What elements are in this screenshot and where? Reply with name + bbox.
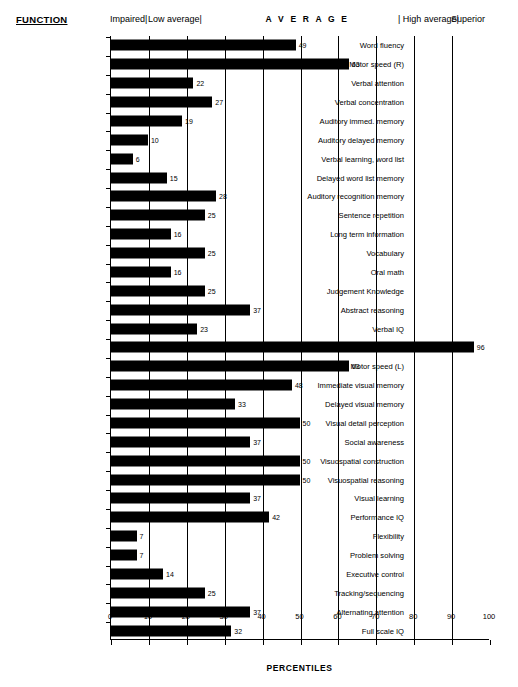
- bar-8: [110, 191, 216, 202]
- bar-wrap: 27: [110, 93, 489, 112]
- bar-wrap: 6: [110, 149, 489, 168]
- chart-row: Social awareness37: [0, 432, 518, 451]
- bar-wrap: 7: [110, 527, 489, 546]
- bar-value-3: 27: [212, 99, 223, 106]
- bar-value-6: 6: [133, 155, 140, 162]
- bar-wrap: 16: [110, 263, 489, 282]
- bar-value-19: 33: [235, 401, 246, 408]
- bar-value-22: 50: [300, 457, 311, 464]
- bar-3: [110, 97, 212, 108]
- bar-wrap: 25: [110, 206, 489, 225]
- bar-wrap: 25: [110, 281, 489, 300]
- band-label-3: | High average|: [398, 14, 459, 24]
- bar-14: [110, 304, 250, 315]
- bar-wrap: 15: [110, 168, 489, 187]
- chart-row: Tracking/sequencing25: [0, 583, 518, 602]
- bar-wrap: 7: [110, 546, 489, 565]
- chart-row: Delayed visual memory33: [0, 395, 518, 414]
- x-tick-60: [338, 640, 339, 645]
- bar-wrap: 63: [110, 55, 489, 74]
- bar-value-25: 42: [269, 514, 280, 521]
- bar-value-29: 25: [205, 589, 216, 596]
- chart-row: Immediate visual memory48: [0, 376, 518, 395]
- band-label-0: Impaired|: [110, 14, 147, 24]
- bar-value-14: 37: [250, 306, 261, 313]
- bar-12: [110, 266, 171, 277]
- bar-16: [110, 342, 474, 353]
- bar-value-21: 37: [250, 438, 261, 445]
- bar-wrap: 33: [110, 395, 489, 414]
- bar-wrap: 96: [110, 338, 489, 357]
- bar-value-5: 10: [148, 136, 159, 143]
- chart-row: Visual detail perception50: [0, 414, 518, 433]
- bar-17: [110, 361, 349, 372]
- bar-27: [110, 550, 137, 561]
- chart-row: Auditory immed. memory19: [0, 112, 518, 131]
- chart-row: Performance IQ42: [0, 508, 518, 527]
- bar-6: [110, 153, 133, 164]
- chart-row: Full scale IQ32: [0, 621, 518, 640]
- bar-wrap: 49: [110, 36, 489, 55]
- chart-row: Visuospatial reasoning50: [0, 470, 518, 489]
- band-label-1: Low average|: [148, 14, 202, 24]
- function-column-header: FUNCTION: [16, 14, 67, 25]
- bar-wrap: 37: [110, 432, 489, 451]
- x-tick-100: [490, 640, 491, 645]
- band-label-2: A V E R A G E: [265, 14, 349, 24]
- chart-row: Sentence repetition25: [0, 206, 518, 225]
- bar-28: [110, 568, 163, 579]
- bar-25: [110, 512, 269, 523]
- x-tick-80: [414, 640, 415, 645]
- bar-value-13: 25: [205, 287, 216, 294]
- bar-value-27: 7: [137, 552, 144, 559]
- chart-row: Motor speed (R)63: [0, 55, 518, 74]
- chart-row: Verbal concentration27: [0, 93, 518, 112]
- bar-value-12: 16: [171, 268, 182, 275]
- bar-11: [110, 248, 205, 259]
- bar-wrap: 23: [110, 319, 489, 338]
- chart-row: Delayed word list memory15: [0, 168, 518, 187]
- chart-row: Executive control14: [0, 565, 518, 584]
- bar-wrap: 25: [110, 244, 489, 263]
- bar-value-7: 15: [167, 174, 178, 181]
- bar-22: [110, 455, 300, 466]
- bar-wrap: 19: [110, 112, 489, 131]
- bar-value-2: 22: [193, 80, 204, 87]
- x-tick-40: [263, 640, 264, 645]
- chart-row: Flexibility7: [0, 527, 518, 546]
- chart-row: Auditory recognition memory28: [0, 187, 518, 206]
- chart-row: Motor speed (L)63: [0, 357, 518, 376]
- bar-5: [110, 134, 148, 145]
- bar-24: [110, 493, 250, 504]
- bar-15: [110, 323, 197, 334]
- chart-row: Verbal learning, word list6: [0, 149, 518, 168]
- bar-wrap: 50: [110, 470, 489, 489]
- bar-13: [110, 285, 205, 296]
- chart-row: Visual learning37: [0, 489, 518, 508]
- bar-31: [110, 625, 231, 636]
- bar-wrap: 37: [110, 489, 489, 508]
- bar-0: [110, 40, 296, 51]
- chart-row: Long term information16: [0, 225, 518, 244]
- chart-row: Problem solving7: [0, 546, 518, 565]
- bar-wrap: 22: [110, 74, 489, 93]
- bar-7: [110, 172, 167, 183]
- bar-wrap: 14: [110, 565, 489, 584]
- bar-wrap: 42: [110, 508, 489, 527]
- x-tick-70: [376, 640, 377, 645]
- bar-wrap: 28: [110, 187, 489, 206]
- bar-value-11: 25: [205, 250, 216, 257]
- bar-value-18: 48: [292, 382, 303, 389]
- bar-wrap: 10: [110, 130, 489, 149]
- chart-row: Planning & foresight96: [0, 338, 518, 357]
- bar-wrap: 48: [110, 376, 489, 395]
- bar-wrap: 37: [110, 602, 489, 621]
- bar-wrap: 63: [110, 357, 489, 376]
- chart-row: Visuospatial construction50: [0, 451, 518, 470]
- bar-value-17: 63: [349, 363, 360, 370]
- bar-wrap: 37: [110, 300, 489, 319]
- bar-1: [110, 59, 349, 70]
- chart-row: Word fluency49: [0, 36, 518, 55]
- x-tick-30: [225, 640, 226, 645]
- chart-row: Oral math16: [0, 263, 518, 282]
